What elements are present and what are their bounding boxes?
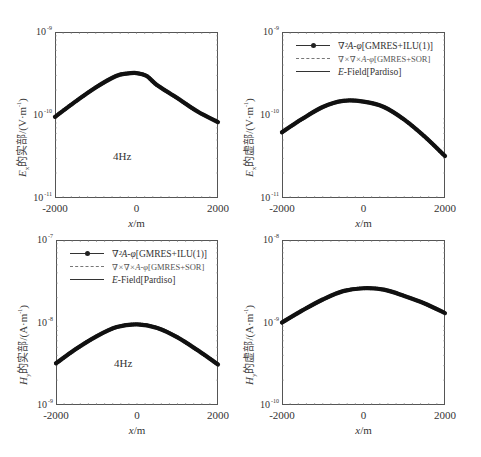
chart-panel-bottom-right: 10-810-910-10-200002000x/mHy的虚部/(A·m-1) xyxy=(0,0,481,457)
series-markers-gmres-ilu xyxy=(282,288,445,322)
y-axis-symbol: H xyxy=(243,377,255,385)
y-tick-exponent: -10 xyxy=(271,398,279,404)
y-axis-label: Hy的虚部/(A·m-1) xyxy=(240,304,258,384)
y-tick-label: 10-8 xyxy=(249,233,279,245)
plot-svg xyxy=(0,0,481,457)
y-tick-exponent: -8 xyxy=(274,233,279,239)
y-axis-text: 的虚部/(A·m xyxy=(243,313,255,373)
y-tick-base: 10 xyxy=(263,234,273,245)
series-line-gmres-sor xyxy=(282,288,445,322)
figure-caption xyxy=(130,449,355,457)
y-tick-exponent: -9 xyxy=(274,316,279,322)
x-tick-label: 2000 xyxy=(425,409,465,421)
data-marker xyxy=(442,310,446,314)
x-axis-unit: /m xyxy=(360,424,372,436)
x-tick-label: -2000 xyxy=(262,409,302,421)
y-axis-close: ) xyxy=(243,304,255,308)
series-line-efield-pardiso xyxy=(282,288,445,322)
x-axis-label: x/m xyxy=(344,424,384,436)
y-tick-base: 10 xyxy=(263,317,273,328)
x-tick-label: 0 xyxy=(344,409,384,421)
